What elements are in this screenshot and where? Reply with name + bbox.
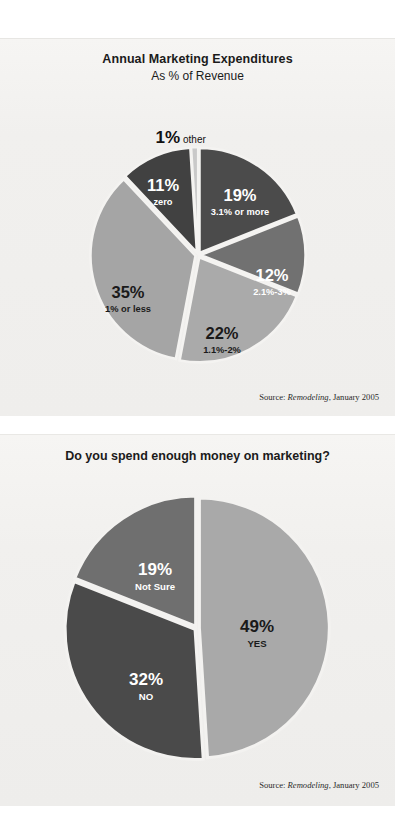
pie-chart-2: 49% YES 32% NO 19% Not Sure <box>0 435 395 806</box>
chart-1-source-suffix: , January 2005 <box>329 392 379 402</box>
chart-1-source-prefix: Source: <box>259 392 287 402</box>
pie-label-value-1: 1% <box>155 128 180 147</box>
chart-1-plot-area: 19% 3.1% or more 12% 2.1%-3% 22% 1.1%-2%… <box>0 39 395 416</box>
pie-chart-1: 19% 3.1% or more 12% 2.1%-3% 22% 1.1%-2%… <box>0 39 395 416</box>
panel-divider <box>0 416 395 434</box>
chart-2-plot-area: 49% YES 32% NO 19% Not Sure <box>0 435 395 806</box>
chart-panel-spend-enough: Do you spend enough money on marketing? … <box>0 434 395 806</box>
chart-2-source-suffix: , January 2005 <box>329 780 379 790</box>
document-page: Annual Marketing Expenditures As % of Re… <box>0 0 395 835</box>
chart-2-source-prefix: Source: <box>259 780 287 790</box>
chart-2-source: Source: Remodeling, January 2005 <box>259 780 379 790</box>
pie-label-name-other: other <box>183 134 206 145</box>
chart-2-source-publication: Remodeling <box>288 780 329 790</box>
chart-1-source: Source: Remodeling, January 2005 <box>259 392 379 402</box>
chart-1-source-publication: Remodeling <box>288 392 329 402</box>
pie-label-other: 1% other <box>155 128 206 147</box>
chart-panel-annual-expenditures: Annual Marketing Expenditures As % of Re… <box>0 38 395 416</box>
pie-slice-yes[interactable] <box>199 498 329 758</box>
